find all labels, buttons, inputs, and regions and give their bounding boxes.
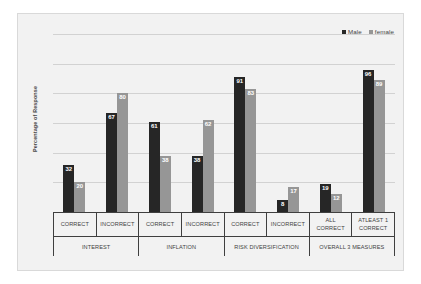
bar-female[interactable]: 12 <box>331 194 342 212</box>
axis-subcategory-label: CORRECT <box>225 213 268 236</box>
axis-subcategory-label: CORRECT <box>139 213 182 236</box>
axis-group-risk-diversification: CORRECTINCORRECTRISK DIVERSIFICATION <box>225 213 310 256</box>
bar-male[interactable]: 61 <box>149 122 160 212</box>
y-axis-title: Percentage of Response <box>30 64 40 174</box>
bar-male[interactable]: 67 <box>106 113 117 212</box>
bar-female[interactable]: 62 <box>203 120 214 212</box>
axis-group-overall-3-measures: ALL CORRECTATLEAST 1 CORRECTOVERALL 3 ME… <box>310 213 395 256</box>
bar-value-label: 96 <box>363 71 374 78</box>
category-axis: CORRECTINCORRECTINTERESTCORRECTINCORRECT… <box>53 212 395 256</box>
bar-value-label: 38 <box>160 157 171 164</box>
axis-group-interest: CORRECTINCORRECTINTEREST <box>53 213 139 256</box>
bar-value-label: 19 <box>320 185 331 192</box>
axis-subcategory-label: ATLEAST 1 CORRECT <box>352 213 394 236</box>
axis-subcategory-label: ALL CORRECT <box>310 213 353 236</box>
bar-female[interactable]: 80 <box>117 93 128 212</box>
bar-pair: 3220 <box>53 34 96 212</box>
legend-swatch-female <box>369 30 373 34</box>
bar-male[interactable]: 19 <box>320 184 331 212</box>
bar-value-label: 38 <box>192 157 203 164</box>
bar-female[interactable]: 17 <box>288 187 299 212</box>
bar-pair: 817 <box>267 34 310 212</box>
bar-value-label: 8 <box>277 201 288 208</box>
axis-group-label: RISK DIVERSIFICATION <box>225 237 309 256</box>
bar-value-label: 17 <box>288 188 299 195</box>
bar-pair: 6780 <box>96 34 139 212</box>
chart-figure: Male female Percentage of Response 32206… <box>17 13 404 271</box>
legend-swatch-male <box>342 30 346 34</box>
axis-subcategory-row: ALL CORRECTATLEAST 1 CORRECT <box>310 213 394 237</box>
bar-female[interactable]: 89 <box>374 80 385 212</box>
bar-pair: 6138 <box>139 34 182 212</box>
bar-value-label: 62 <box>203 121 214 128</box>
bar-male[interactable]: 96 <box>363 70 374 212</box>
bar-pair: 9689 <box>352 34 395 212</box>
bar-pair: 3862 <box>181 34 224 212</box>
axis-subcategory-label: INCORRECT <box>182 213 224 236</box>
bar-pair: 9183 <box>224 34 267 212</box>
axis-subcategory-row: CORRECTINCORRECT <box>54 213 138 237</box>
bar-male[interactable]: 91 <box>234 77 245 212</box>
bar-male[interactable]: 8 <box>277 200 288 212</box>
axis-group-inflation: CORRECTINCORRECTINFLATION <box>139 213 224 256</box>
axis-group-label: OVERALL 3 MEASURES <box>310 237 394 256</box>
bar-male[interactable]: 32 <box>63 165 74 212</box>
bar-value-label: 91 <box>234 78 245 85</box>
axis-group-label: INTEREST <box>54 237 138 256</box>
bar-value-label: 20 <box>74 183 85 190</box>
bar-male[interactable]: 38 <box>192 156 203 212</box>
bar-series-container: 3220678061383862918381719129689 <box>53 34 395 212</box>
bar-value-label: 32 <box>63 166 74 173</box>
axis-subcategory-label: INCORRECT <box>97 213 139 236</box>
bar-female[interactable]: 20 <box>74 182 85 212</box>
axis-subcategory-label: INCORRECT <box>267 213 309 236</box>
axis-subcategory-row: CORRECTINCORRECT <box>225 213 309 237</box>
axis-group-label: INFLATION <box>139 237 223 256</box>
bar-value-label: 80 <box>117 94 128 101</box>
bar-value-label: 67 <box>106 114 117 121</box>
plot-area: 3220678061383862918381719129689 <box>53 34 395 212</box>
bar-value-label: 12 <box>331 195 342 202</box>
bar-female[interactable]: 83 <box>245 89 256 212</box>
bar-pair: 1912 <box>310 34 353 212</box>
bar-value-label: 89 <box>374 81 385 88</box>
axis-subcategory-row: CORRECTINCORRECT <box>139 213 223 237</box>
bar-value-label: 83 <box>245 90 256 97</box>
bar-female[interactable]: 38 <box>160 156 171 212</box>
axis-subcategory-label: CORRECT <box>54 213 97 236</box>
bar-value-label: 61 <box>149 123 160 130</box>
